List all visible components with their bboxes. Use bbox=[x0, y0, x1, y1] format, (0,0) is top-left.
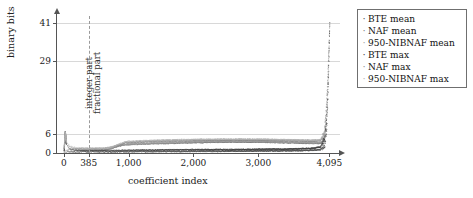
legend-label: NAF max bbox=[368, 63, 410, 72]
plot-area: integer part fractional part 062941 0385… bbox=[56, 14, 346, 158]
series-950-nibnaf-max bbox=[64, 23, 330, 149]
y-axis-arrow-icon bbox=[54, 8, 60, 14]
series-naf-max bbox=[64, 22, 330, 150]
legend-item-950-nibnaf-max[interactable]: ·950-NIBNAF max bbox=[361, 73, 462, 85]
chart-page: binary bits coefficient index integer pa… bbox=[0, 0, 473, 198]
legend-marker-icon: · bbox=[361, 62, 367, 72]
y-axis-line bbox=[56, 14, 57, 154]
x-tick-mark-4,095 bbox=[329, 153, 330, 157]
legend-marker-icon: · bbox=[361, 26, 367, 36]
series-bte-max bbox=[64, 26, 330, 152]
y-tick-mark bbox=[53, 61, 56, 62]
legend-label: 950-NIBNAF mean bbox=[368, 39, 455, 48]
legend-label: NAF mean bbox=[368, 27, 417, 36]
legend-label: BTE max bbox=[368, 51, 409, 60]
y-tick-label: 6 bbox=[45, 130, 51, 139]
legend-item-naf-mean[interactable]: ·NAF mean bbox=[361, 25, 462, 37]
legend-marker-icon: · bbox=[361, 38, 367, 48]
y-axis-title: binary bits bbox=[6, 6, 16, 58]
legend-marker-icon: · bbox=[361, 50, 367, 60]
y-tick-mark bbox=[53, 134, 56, 135]
legend-marker-icon: · bbox=[361, 74, 367, 84]
x-tick-mark-1,000 bbox=[129, 153, 130, 157]
legend-label: BTE mean bbox=[368, 15, 415, 24]
x-tick-label-3,000: 3,000 bbox=[245, 159, 271, 168]
x-tick-label-4,095: 4,095 bbox=[316, 159, 342, 168]
x-axis-line bbox=[56, 153, 340, 154]
x-tick-mark-3,000 bbox=[258, 153, 259, 157]
legend-item-naf-max[interactable]: ·NAF max bbox=[361, 61, 462, 73]
series-950-nibnaf-mean bbox=[64, 23, 330, 152]
x-tick-label-385: 385 bbox=[80, 159, 97, 168]
x-tick-label-0: 0 bbox=[61, 159, 67, 168]
legend: ·BTE mean·NAF mean·950-NIBNAF mean·BTE m… bbox=[357, 9, 467, 88]
x-tick-label-2,000: 2,000 bbox=[181, 159, 207, 168]
y-tick-mark bbox=[53, 153, 56, 154]
x-tick-label-1,000: 1,000 bbox=[116, 159, 142, 168]
legend-item-bte-max[interactable]: ·BTE max bbox=[361, 49, 462, 61]
y-tick-mark bbox=[53, 23, 56, 24]
legend-item-950-nibnaf-mean[interactable]: ·950-NIBNAF mean bbox=[361, 37, 462, 49]
legend-label: 950-NIBNAF max bbox=[368, 75, 449, 84]
x-tick-mark-0 bbox=[64, 153, 65, 157]
series-bte-mean bbox=[64, 24, 330, 153]
legend-marker-icon: · bbox=[361, 14, 367, 24]
x-axis-arrow-icon bbox=[339, 150, 345, 156]
x-axis-title: coefficient index bbox=[128, 176, 208, 186]
x-tick-mark-2,000 bbox=[193, 153, 194, 157]
fractional-part-label: fractional part bbox=[93, 52, 102, 114]
series-naf-mean bbox=[64, 22, 330, 152]
y-tick-label: 29 bbox=[40, 57, 51, 66]
y-tick-label: 0 bbox=[45, 149, 51, 158]
y-tick-label: 41 bbox=[40, 19, 51, 28]
legend-item-bte-mean[interactable]: ·BTE mean bbox=[361, 13, 462, 25]
x-tick-mark-385 bbox=[89, 153, 90, 157]
